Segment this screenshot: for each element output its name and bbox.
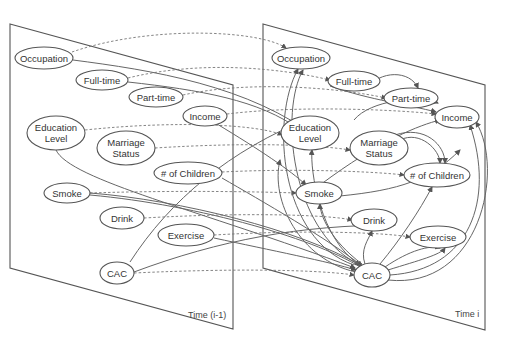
node-label: Smoke (52, 188, 82, 199)
temporal-edge (227, 109, 436, 114)
causal-edge (363, 231, 372, 264)
node-label: Education (35, 122, 77, 133)
node-l_edu[interactable]: EducationLevel (27, 116, 85, 150)
diagram-canvas: Time (i-1)Time i OccupationFull-timePart… (0, 0, 509, 343)
node-label: Part-time (392, 93, 431, 104)
node-label: Income (189, 111, 220, 122)
node-label: Exercise (420, 232, 456, 243)
node-r_cac[interactable]: CAC (354, 263, 390, 287)
node-r_mar[interactable]: MarriageStatus (350, 131, 408, 165)
node-r_smo[interactable]: Smoke (296, 182, 342, 204)
node-label: Smoke (304, 188, 334, 199)
node-l_part[interactable]: Part-time (129, 87, 183, 107)
node-l_smo[interactable]: Smoke (44, 183, 90, 203)
node-label: # of Children (410, 170, 464, 181)
node-label: Status (113, 148, 140, 159)
node-l_mar[interactable]: MarriageStatus (97, 131, 155, 165)
node-r_full[interactable]: Full-time (328, 71, 380, 91)
node-label: Income (441, 112, 472, 123)
node-label: Marriage (360, 137, 398, 148)
node-label: Occupation (20, 53, 68, 64)
node-label: Full-time (84, 75, 120, 86)
node-l_occ[interactable]: Occupation (15, 47, 73, 69)
node-l_cac[interactable]: CAC (100, 262, 134, 284)
node-label: Status (366, 148, 393, 159)
node-label: Occupation (277, 53, 325, 64)
temporal-edge (134, 270, 354, 275)
node-label: CAC (362, 270, 382, 281)
temporal-edge (72, 33, 286, 52)
node-r_part[interactable]: Part-time (384, 88, 438, 108)
node-r_edu[interactable]: EducationLevel (281, 116, 339, 150)
temporal-edge (144, 215, 352, 220)
node-label: # of Children (161, 168, 215, 179)
plane-label: Time i (455, 309, 479, 319)
node-r_inc[interactable]: Income (435, 106, 479, 128)
node-r_dri[interactable]: Drink (351, 209, 397, 231)
plane-label: Time (i-1) (188, 310, 226, 320)
node-l_chi[interactable]: # of Children (154, 162, 222, 184)
node-l_dri[interactable]: Drink (100, 207, 144, 229)
node-label: Part-time (137, 92, 176, 103)
node-label: Marriage (107, 137, 145, 148)
causal-edge (292, 70, 358, 264)
node-label: CAC (107, 268, 127, 279)
node-label: Drink (363, 215, 385, 226)
dbn-diagram: Time (i-1)Time i OccupationFull-timePart… (0, 0, 509, 343)
node-l_full[interactable]: Full-time (76, 70, 128, 90)
node-l_exe[interactable]: Exercise (158, 224, 214, 246)
node-r_exe[interactable]: Exercise (410, 226, 466, 248)
node-label: Level (299, 133, 322, 144)
node-label: Level (45, 133, 68, 144)
node-label: Exercise (168, 230, 204, 241)
node-label: Drink (111, 213, 133, 224)
node-label: Education (289, 122, 331, 133)
temporal-edge (90, 191, 296, 193)
causal-edge (388, 248, 445, 270)
node-r_chi[interactable]: # of Children (404, 163, 470, 187)
node-r_occ[interactable]: Occupation (272, 47, 330, 69)
node-label: Full-time (336, 76, 372, 87)
node-l_inc[interactable]: Income (183, 106, 227, 126)
